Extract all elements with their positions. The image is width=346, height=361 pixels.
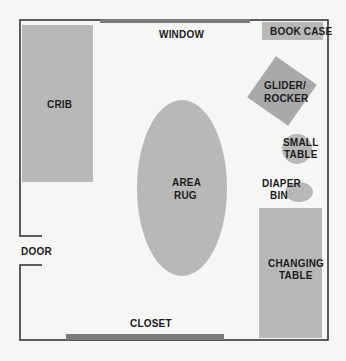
crib-label: CRIB bbox=[47, 99, 72, 110]
changing-table-label-2: TABLE bbox=[279, 270, 313, 281]
small-table-label-2: TABLE bbox=[284, 149, 318, 160]
book-case-label: BOOK CASE bbox=[270, 26, 332, 37]
closet-label: CLOSET bbox=[130, 318, 172, 329]
diaper-bin-label-1: DIAPER bbox=[262, 178, 302, 189]
door-label: DOOR bbox=[21, 246, 52, 257]
glider-rocker-label-1: GLIDER/ bbox=[264, 80, 306, 91]
window-bar bbox=[100, 19, 250, 23]
small-table-label-1: SMALL bbox=[283, 137, 318, 148]
area-rug bbox=[137, 100, 227, 276]
area-rug-label-1: AREA bbox=[172, 177, 201, 188]
glider-rocker-label-2: ROCKER bbox=[264, 93, 309, 104]
glider-rocker bbox=[247, 56, 317, 126]
floor-plan: WINDOW BOOK CASE CRIB GLIDER/ ROCKER SMA… bbox=[0, 0, 346, 361]
area-rug-label-2: RUG bbox=[174, 190, 197, 201]
diaper-bin-label-2: BIN bbox=[270, 190, 288, 201]
changing-table-label-1: CHANGING bbox=[268, 258, 324, 269]
window-label: WINDOW bbox=[159, 29, 204, 40]
closet-bar bbox=[66, 334, 224, 340]
